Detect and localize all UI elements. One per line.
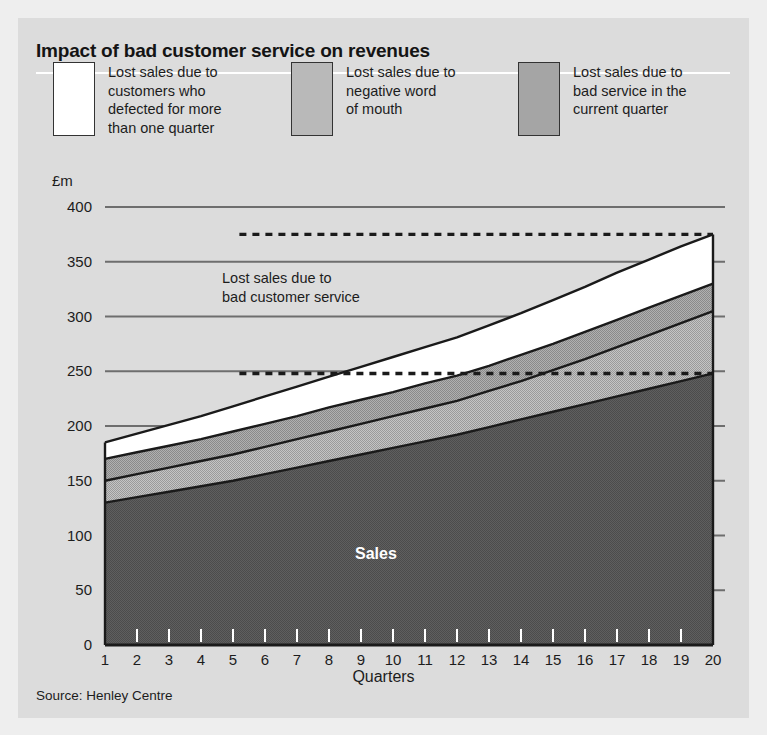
x-tick-label-6: 6 <box>250 651 280 668</box>
x-tick-label-13: 13 <box>474 651 504 668</box>
x-tick-label-4: 4 <box>186 651 216 668</box>
legend: Lost sales due to customers who defected… <box>18 62 718 162</box>
legend-swatch-dark-gray <box>518 62 560 136</box>
x-tick-label-1: 1 <box>90 651 120 668</box>
legend-item-defected: Lost sales due to customers who defected… <box>53 62 222 137</box>
legend-swatch-white <box>53 62 95 136</box>
y-tick-label-100: 100 <box>44 527 92 544</box>
y-tick-label-250: 250 <box>44 362 92 379</box>
y-tick-label-300: 300 <box>44 308 92 325</box>
x-axis-title: Quarters <box>0 668 767 686</box>
x-tick-label-11: 11 <box>410 651 440 668</box>
y-tick-label-150: 150 <box>44 472 92 489</box>
annotation-lost-sales: Lost sales due to bad customer service <box>222 269 360 307</box>
x-tick-label-19: 19 <box>666 651 696 668</box>
chart-page: Impact of bad customer service on revenu… <box>0 0 767 735</box>
legend-label-defected: Lost sales due to customers who defected… <box>108 62 222 137</box>
y-axis-unit-label: £m <box>52 172 73 189</box>
x-tick-label-3: 3 <box>154 651 184 668</box>
legend-item-current-quarter: Lost sales due to bad service in the cur… <box>518 62 687 136</box>
x-tick-label-18: 18 <box>634 651 664 668</box>
x-tick-label-14: 14 <box>506 651 536 668</box>
x-tick-label-20: 20 <box>698 651 728 668</box>
annotation-sales: Sales <box>355 545 397 563</box>
x-tick-label-2: 2 <box>122 651 152 668</box>
y-tick-label-0: 0 <box>44 636 92 653</box>
x-tick-label-9: 9 <box>346 651 376 668</box>
x-tick-label-17: 17 <box>602 651 632 668</box>
y-tick-label-350: 350 <box>44 253 92 270</box>
y-tick-label-200: 200 <box>44 417 92 434</box>
y-tick-label-400: 400 <box>44 198 92 215</box>
page-title: Impact of bad customer service on revenu… <box>36 40 430 62</box>
x-tick-label-7: 7 <box>282 651 312 668</box>
x-tick-label-15: 15 <box>538 651 568 668</box>
x-tick-label-10: 10 <box>378 651 408 668</box>
x-tick-label-12: 12 <box>442 651 472 668</box>
x-tick-label-16: 16 <box>570 651 600 668</box>
source-note: Source: Henley Centre <box>36 688 173 703</box>
legend-item-word-of-mouth: Lost sales due to negative word of mouth <box>291 62 456 136</box>
x-tick-label-5: 5 <box>218 651 248 668</box>
legend-label-word-of-mouth: Lost sales due to negative word of mouth <box>346 62 456 119</box>
legend-swatch-mid-gray <box>291 62 333 136</box>
legend-label-current-quarter: Lost sales due to bad service in the cur… <box>573 62 687 119</box>
y-tick-label-50: 50 <box>44 581 92 598</box>
x-tick-label-8: 8 <box>314 651 344 668</box>
